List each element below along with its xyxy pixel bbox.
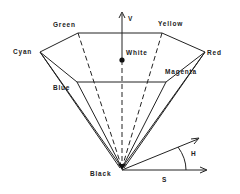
- label-red: Red: [207, 49, 222, 56]
- white-point: [119, 57, 124, 62]
- label-black: Black: [90, 170, 111, 177]
- edge-green-black-hidden: [78, 33, 122, 168]
- edge-blue-black: [77, 82, 122, 168]
- label-cyan: Cyan: [13, 48, 32, 56]
- label-magenta: Magenta: [165, 68, 197, 76]
- diagram-canvas: Green Yellow Cyan Red White Magenta Blue…: [0, 0, 240, 194]
- label-blue: Blue: [53, 84, 70, 91]
- edge-cyan-black-2: [40, 52, 120, 168]
- hue-angle-arc: [178, 147, 186, 170]
- label-white: White: [126, 49, 148, 56]
- label-h-axis: H: [191, 150, 197, 157]
- label-yellow: Yellow: [158, 20, 183, 27]
- label-s-axis: S: [162, 176, 167, 183]
- label-green: Green: [53, 21, 76, 28]
- label-v-axis: V: [128, 15, 133, 22]
- hsv-hexcone-diagram: Green Yellow Cyan Red White Magenta Blue…: [0, 0, 240, 194]
